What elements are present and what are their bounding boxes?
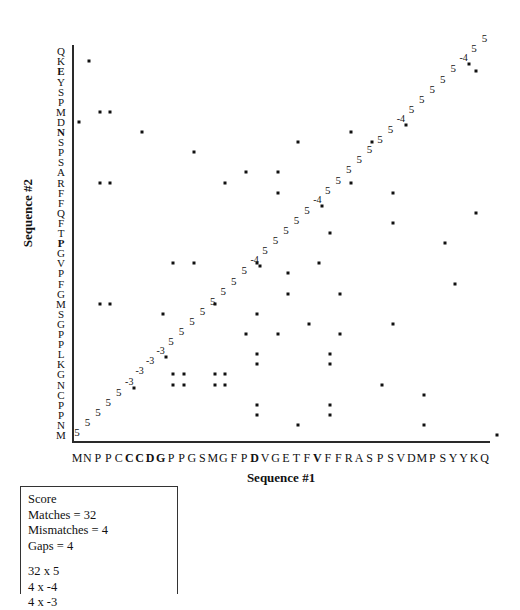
plot-dot — [161, 312, 164, 315]
x-axis-residue: P — [95, 450, 102, 466]
plot-dot — [245, 171, 248, 174]
plot-dot — [255, 403, 258, 406]
plot-dot — [182, 373, 185, 376]
alignment-score-label: -3 — [125, 377, 133, 387]
plot-dot — [339, 292, 342, 295]
x-axis-residue: P — [168, 450, 175, 466]
score-calc-mismatches: 4 x -4 — [28, 580, 177, 596]
alignment-score-label: -4 — [397, 114, 405, 124]
plot-dot — [328, 232, 331, 235]
alignment-score-label: 5 — [221, 285, 227, 296]
plot-dot — [339, 333, 342, 336]
score-mismatches: Mismatches = 4 — [28, 523, 177, 539]
x-axis-residue: S — [439, 450, 446, 466]
x-axis-residue: C — [115, 450, 123, 466]
x-axis-residue: C — [135, 450, 144, 466]
y-axis-residue: M — [56, 430, 66, 440]
x-axis-residue: M — [208, 450, 219, 466]
alignment-score-label: 5 — [367, 144, 373, 155]
y-axis-sequence-track: QKEYSPMDNSPSARFFQFTPGVPFGMSGPPLKGNCPPNM — [52, 45, 70, 443]
plot-dot — [224, 181, 227, 184]
score-spacer — [28, 554, 177, 564]
plot-dot — [443, 242, 446, 245]
alignment-score-label: -3 — [156, 346, 164, 356]
x-axis-residue: D — [407, 450, 416, 466]
x-axis-residue: P — [241, 450, 248, 466]
x-axis-residue: V — [261, 450, 270, 466]
plot-dot — [98, 181, 101, 184]
score-calc-matches: 32 x 5 — [28, 564, 177, 580]
x-axis-residue: G — [219, 450, 228, 466]
alignment-score-label: 5 — [325, 184, 331, 195]
plot-dot — [255, 312, 258, 315]
alignment-score-label: 5 — [273, 235, 279, 246]
alignment-score-label: 5 — [430, 83, 436, 94]
plot-dot — [391, 322, 394, 325]
plot-dot — [328, 403, 331, 406]
plot-dot — [224, 373, 227, 376]
alignment-score-label: 5 — [231, 275, 237, 286]
plot-dot — [255, 413, 258, 416]
alignment-score-label: 5 — [210, 295, 216, 306]
x-axis-residue: P — [178, 450, 185, 466]
x-axis-residue: S — [387, 450, 394, 466]
x-axis-residue: C — [125, 450, 134, 466]
alignment-score-label: 5 — [482, 33, 488, 44]
plot-dot — [391, 221, 394, 224]
alignment-score-label: 5 — [200, 305, 206, 316]
score-summary-box: Score Matches = 32 Mismatches = 4 Gaps =… — [20, 486, 178, 594]
plot-dot — [276, 191, 279, 194]
plot-dot — [172, 262, 175, 265]
x-axis-residue: G — [188, 450, 197, 466]
alignment-score-label: 5 — [106, 396, 112, 407]
x-axis-residue: E — [282, 450, 289, 466]
plot-dot — [109, 302, 112, 305]
plot-dot — [307, 322, 310, 325]
alignment-score-label: 5 — [356, 154, 362, 165]
x-axis-residue: F — [304, 450, 311, 466]
alignment-score-label: 5 — [74, 427, 80, 438]
x-axis-residue: G — [271, 450, 280, 466]
alignment-score-label: -4 — [459, 53, 467, 63]
alignment-score-label: 5 — [471, 43, 477, 54]
x-axis-residue: T — [293, 450, 300, 466]
alignment-score-label: 5 — [283, 225, 289, 236]
x-axis-title: Sequence #1 — [72, 470, 490, 486]
score-matches: Matches = 32 — [28, 508, 177, 524]
alignment-score-label: -4 — [313, 195, 321, 205]
plot-dot — [391, 191, 394, 194]
plot-dot — [182, 383, 185, 386]
plot-dot — [422, 423, 425, 426]
x-axis-residue: S — [199, 450, 206, 466]
x-axis-residue: V — [313, 450, 322, 466]
plot-dot — [88, 60, 91, 63]
plot-dot — [297, 141, 300, 144]
alignment-score-label: 5 — [419, 93, 425, 104]
score-heading: Score — [28, 492, 177, 508]
alignment-score-label: 5 — [116, 386, 122, 397]
alignment-score-label: -3 — [146, 356, 154, 366]
plot-dot — [78, 120, 81, 123]
x-axis-residue: V — [397, 450, 406, 466]
plot-dot — [109, 181, 112, 184]
x-axis-residue: D — [250, 450, 259, 466]
x-axis-residue: A — [355, 450, 364, 466]
alignment-score-label: 5 — [189, 315, 195, 326]
plot-dot — [496, 434, 499, 437]
x-axis-residue: M — [72, 450, 83, 466]
alignment-score-label: 5 — [304, 204, 310, 215]
x-axis-residue: D — [146, 450, 155, 466]
x-axis-residue: N — [83, 450, 92, 466]
plot-dot — [297, 423, 300, 426]
x-axis-sequence-track: MNPPCCCDGPPGSMGFPDVGETFVFFRASPSVDMPSYYKQ — [72, 450, 490, 466]
alignment-score-label: 5 — [336, 174, 342, 185]
score-calc-gaps: 4 x -3 — [28, 595, 177, 610]
x-axis-residue: P — [377, 450, 384, 466]
x-axis-residue: Y — [459, 450, 468, 466]
plot-dot — [98, 110, 101, 113]
plot-dot — [213, 383, 216, 386]
plot-dot — [245, 333, 248, 336]
plot-dot — [255, 353, 258, 356]
plot-dot — [349, 181, 352, 184]
plot-dot — [213, 373, 216, 376]
